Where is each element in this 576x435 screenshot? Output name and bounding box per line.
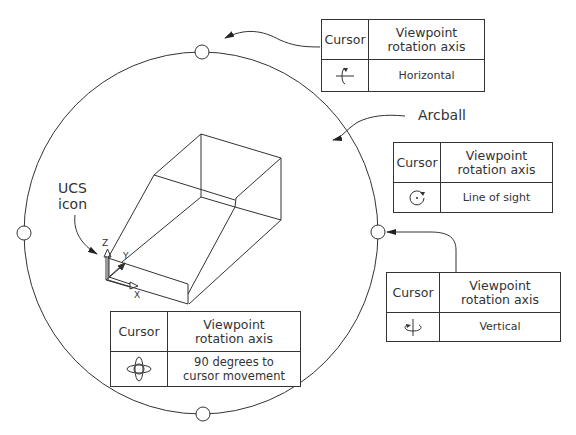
ucs-icon-label-line1: UCS [58,181,87,196]
leader-ucs [75,215,97,254]
line-of-sight-rotation-cursor-icon [394,183,441,213]
header-cursor: Cursor [387,273,440,313]
axis-value: Horizontal [369,60,485,92]
header-axis: Viewpoint rotation axis [168,312,301,352]
header-axis: Viewpoint rotation axis [369,20,485,60]
horizontal-rotation-cursor-icon [322,60,369,92]
header-cursor: Cursor [394,143,441,183]
ucs-icon-label-line2: icon [58,197,87,212]
header-axis: Viewpoint rotation axis [440,273,561,313]
axis-y-label: Y [123,251,129,261]
header-cursor: Cursor [111,312,168,352]
table-vertical: Cursor Viewpoint rotation axis Vertical [386,272,561,342]
right-handle [371,225,385,239]
leader-horizontal [225,31,320,47]
left-handle [17,226,31,240]
table-horizontal: Cursor Viewpoint rotation axis Horizonta… [321,19,485,92]
leader-arcball [333,115,405,140]
header-axis: Viewpoint rotation axis [441,143,553,183]
axis-x-label: X [134,290,140,300]
leader-vertical [387,232,456,273]
bottom-handle [196,407,210,421]
vertical-rotation-cursor-icon [387,313,440,342]
arcball-label: Arcball [418,108,466,123]
axis-value: Vertical [440,313,561,342]
header-cursor: Cursor [322,20,369,60]
axis-value: 90 degrees to cursor movement [168,352,301,387]
wireframe-model [108,134,281,304]
axis-value: Line of sight [441,183,553,213]
free-rotation-cursor-icon [111,352,168,387]
table-line-of-sight: Cursor Viewpoint rotation axis Line of s… [393,142,553,213]
top-handle [195,45,209,59]
table-free-rotation: Cursor Viewpoint rotation axis 90 degree… [110,311,301,387]
axis-z-label: Z [102,238,108,248]
